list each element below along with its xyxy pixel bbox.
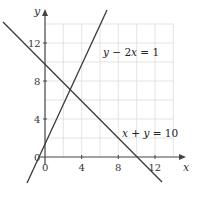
y-tick-8: 8 [34,76,40,87]
equation-label-2: x + y = 10 [122,127,178,139]
x-tick-4: 4 [79,162,85,173]
ticks [43,43,155,159]
y-axis-label: y [33,5,41,18]
x-tick-0: 0 [42,162,48,173]
coordinate-graph: 0 4 8 12 0 4 8 12 x y y − 2x = 1 x + y =… [0,0,199,197]
equation-label-1: y − 2x = 1 [102,46,159,58]
x-tick-8: 8 [115,162,121,173]
axes [40,9,186,165]
y-axis-arrow-icon [42,9,48,16]
y-tick-0: 0 [34,152,40,163]
y-tick-4: 4 [34,114,40,125]
y-tick-12: 12 [28,38,41,49]
x-axis-arrow-icon [179,154,186,160]
x-tick-12: 12 [149,162,162,173]
x-axis-label: x [183,161,190,174]
